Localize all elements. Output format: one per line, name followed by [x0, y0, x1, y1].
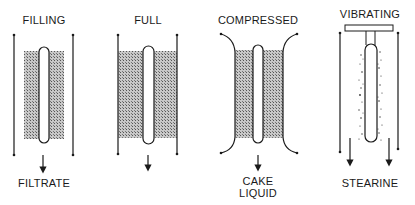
filter-element — [253, 45, 263, 143]
vibrator-head — [345, 25, 393, 31]
panel-title-filling: FILLING — [23, 14, 66, 26]
panel-title-compressed: COMPRESSED — [218, 14, 298, 26]
output-label-liquid: LIQUID — [239, 187, 277, 199]
panel-compressed — [220, 33, 299, 168]
panel-filling — [13, 34, 75, 170]
filter-element — [143, 46, 154, 144]
panel-title-full: FULL — [134, 14, 162, 26]
output-label-filtrate: FILTRATE — [18, 177, 70, 189]
output-label-stearine: STEARINE — [342, 177, 399, 189]
filter-element — [365, 44, 377, 142]
output-label-cake: CAKE — [243, 175, 274, 187]
filter-cloth-right — [283, 34, 297, 153]
filter-cloth-left — [221, 34, 235, 153]
panel-title-vibrating: VIBRATING — [340, 8, 400, 20]
panel-full — [117, 34, 179, 168]
filter-element — [39, 47, 49, 143]
panel-vibrating — [339, 25, 400, 163]
filter-stages-diagram — [0, 0, 415, 205]
